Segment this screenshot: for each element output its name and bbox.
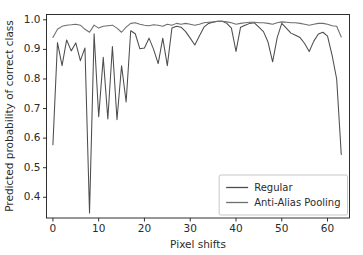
x-tick-label: 0 (50, 222, 57, 234)
x-axis-title: Pixel shifts (170, 238, 226, 250)
chart-legend[interactable]: RegularAnti-Alias Pooling (219, 175, 347, 215)
x-tick-label: 30 (184, 222, 197, 234)
y-tick-label: 0.8 (24, 72, 41, 84)
y-axis-ticks: 0.40.50.60.70.80.91.0 (24, 13, 47, 202)
legend-item-label: Regular (254, 182, 293, 193)
y-axis-title: Predicted probability of correct class (3, 20, 15, 212)
y-tick-label: 0.4 (24, 190, 41, 202)
figure-canvas: 0.40.50.60.70.80.91.0 0102030405060 Pixe… (0, 0, 363, 255)
y-tick-label: 0.7 (24, 102, 41, 114)
x-tick-label: 60 (321, 222, 334, 234)
y-tick-label: 0.9 (24, 42, 41, 54)
legend-item-label: Anti-Alias Pooling (254, 197, 340, 208)
series-line-anti-alias-pooling (53, 21, 341, 37)
y-tick-label: 1.0 (24, 13, 41, 25)
x-tick-label: 50 (275, 222, 288, 234)
y-tick-label: 0.6 (24, 131, 41, 143)
line-chart: 0.40.50.60.70.80.91.0 0102030405060 Pixe… (0, 0, 363, 255)
x-axis-ticks: 0102030405060 (50, 218, 335, 234)
x-tick-label: 40 (229, 222, 242, 234)
x-tick-label: 20 (138, 222, 151, 234)
x-tick-label: 10 (92, 222, 105, 234)
y-tick-label: 0.5 (24, 161, 41, 173)
